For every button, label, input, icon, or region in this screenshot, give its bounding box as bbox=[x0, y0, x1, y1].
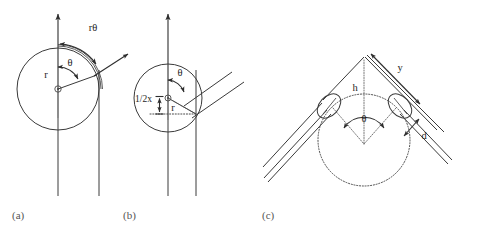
panel-b-caption: (b) bbox=[123, 209, 136, 222]
panel-a-angle-label: θ bbox=[67, 57, 72, 68]
panel-b-radius-label: r bbox=[171, 102, 175, 113]
panel-c-arm-label: y bbox=[397, 62, 403, 73]
panel-c-thickness-label: d bbox=[421, 130, 427, 141]
figure-svg: r θ rθ (a) 1/2x θ r bbox=[0, 0, 482, 231]
panel-a-caption: (a) bbox=[12, 209, 25, 222]
panel-a-radius-label: r bbox=[44, 69, 48, 80]
panel-b-half-x-label: 1/2x bbox=[135, 94, 152, 104]
panel-b-angle-label: θ bbox=[177, 67, 182, 78]
panel-c-height-label: h bbox=[352, 82, 358, 93]
figure-container: r θ rθ (a) 1/2x θ r bbox=[0, 0, 482, 231]
panel-c-angle-label: θ bbox=[361, 113, 366, 124]
panel-c-caption: (c) bbox=[262, 209, 275, 222]
panel-a-arc-label: rθ bbox=[89, 22, 98, 33]
